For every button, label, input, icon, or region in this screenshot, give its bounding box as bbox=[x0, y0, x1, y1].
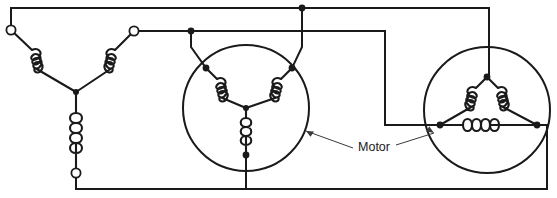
circuit-svg: Motor bbox=[0, 0, 557, 198]
source-terminal-a-ring[interactable] bbox=[6, 25, 15, 34]
wye-motor-coil-bottom bbox=[241, 108, 252, 155]
wire-phase-a-top-bus bbox=[11, 8, 489, 77]
delta-motor-terminal-left bbox=[437, 122, 444, 129]
source-coil-phase-c bbox=[70, 92, 82, 173]
wye-motor-terminal-left bbox=[203, 65, 210, 72]
motor-leader-left bbox=[306, 131, 353, 148]
wire-phase-a-tap-wye-motor bbox=[292, 8, 302, 68]
source-coil-phase-b bbox=[76, 31, 134, 92]
circuit-diagram: Motor bbox=[0, 0, 557, 198]
delta-motor-terminal-right bbox=[534, 122, 541, 129]
delta-motor-enclosure bbox=[424, 47, 550, 173]
motor-leader-right bbox=[396, 133, 434, 145]
source-neutral-node bbox=[73, 89, 79, 95]
source-terminal-c-ring[interactable] bbox=[71, 168, 80, 177]
wye-connected-motor[interactable] bbox=[183, 45, 309, 171]
delta-motor-coil-bottom bbox=[440, 119, 537, 131]
junction-dot-top-bus bbox=[299, 5, 306, 12]
wye-motor-coil-left bbox=[206, 68, 246, 108]
delta-motor-coil-upper-right bbox=[487, 77, 537, 125]
wye-motor-terminal-right bbox=[289, 65, 296, 72]
delta-motor-coil-upper-left bbox=[440, 77, 487, 125]
motor-label: Motor bbox=[358, 140, 390, 154]
wye-motor-coil-right bbox=[246, 68, 292, 108]
source-coil-phase-a bbox=[11, 30, 76, 92]
junction-dot-second-bus bbox=[188, 28, 195, 35]
wye-motor-neutral-node bbox=[243, 105, 249, 111]
delta-connected-motor[interactable] bbox=[424, 47, 550, 173]
wye-motor-terminal-bottom bbox=[243, 152, 250, 159]
source-terminal-b-ring[interactable] bbox=[129, 26, 138, 35]
motor-callout: Motor bbox=[306, 126, 434, 154]
wire-phase-b-bus bbox=[134, 31, 440, 125]
wye-source bbox=[6, 25, 138, 177]
bus-junction-dots bbox=[188, 5, 306, 35]
delta-motor-terminal-top bbox=[484, 74, 491, 81]
